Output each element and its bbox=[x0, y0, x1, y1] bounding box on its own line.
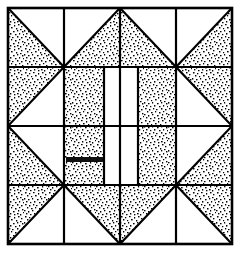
ink-smudge-mark bbox=[66, 157, 104, 162]
unit-r2c3b-stipple-block bbox=[138, 67, 176, 126]
block-body bbox=[8, 8, 232, 244]
unit-r3c3b-stipple-block bbox=[138, 126, 176, 185]
unit-r3c2-stipple-block bbox=[64, 126, 104, 185]
quilt-block-svg bbox=[0, 0, 241, 255]
unit-r2c2-stipple-block bbox=[64, 67, 104, 126]
quilt-block-diagram: Quilt Block Pattern bbox=[0, 0, 241, 255]
